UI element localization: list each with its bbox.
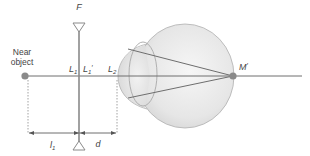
label-focal-f: F (76, 2, 82, 12)
near-object-point (21, 72, 28, 79)
arrowhead-d-left-icon (80, 131, 85, 135)
label-distance-l1: l1 (50, 140, 55, 151)
label-near-line2: object (11, 57, 34, 67)
arrowhead-d-right-icon (111, 131, 116, 135)
label-l1: L1 (69, 64, 77, 75)
correcting-lens (73, 23, 85, 150)
label-l2: L2 (108, 64, 117, 75)
optics-diagram: F Near object L1 L1′ L2 M′ l1 d (0, 0, 310, 156)
lens-bottom-arrow-icon (73, 141, 85, 150)
lens-top-arrow-icon (73, 23, 85, 32)
image-point-m-prime (229, 72, 236, 79)
label-near-line1: Near (13, 47, 32, 57)
arrowhead-l1-left-icon (29, 131, 34, 135)
label-m-prime: M′ (239, 62, 249, 72)
label-l1-prime: L1′ (83, 64, 93, 75)
label-distance-d: d (95, 139, 101, 149)
